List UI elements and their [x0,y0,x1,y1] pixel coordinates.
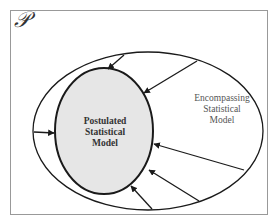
encompassing-model-line3: Model [176,115,268,126]
encompassing-model-line1: Encompassing [176,93,268,104]
encompassing-model-label: Encompassing Statistical Model [176,93,268,126]
postulated-model-line2: Statistical [74,127,136,138]
postulated-model-label: Postulated Statistical Model [74,116,136,149]
postulated-model-line3: Model [74,138,136,149]
population-space-label: 𝒫 [14,9,30,31]
postulated-model-line1: Postulated [74,116,136,127]
encompassing-model-line2: Statistical [176,104,268,115]
